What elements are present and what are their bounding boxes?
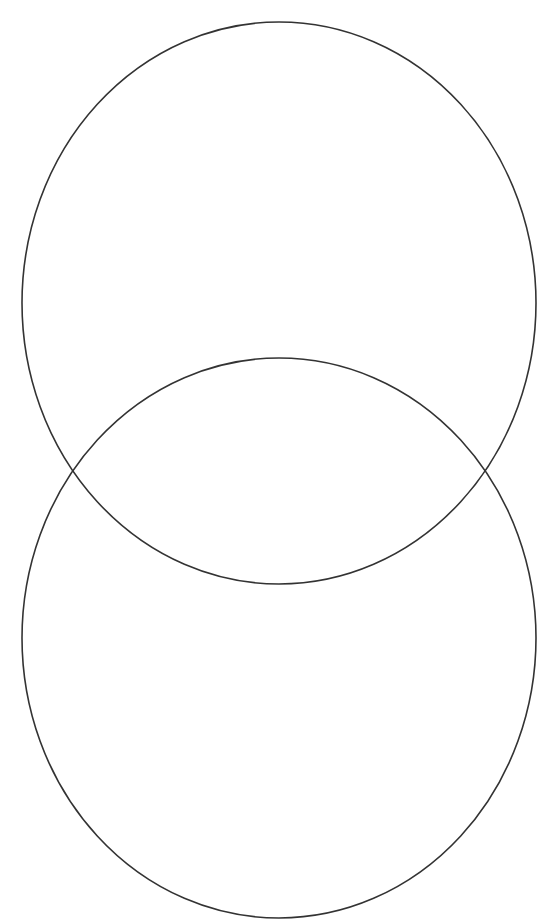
venn-diagram <box>0 0 542 920</box>
